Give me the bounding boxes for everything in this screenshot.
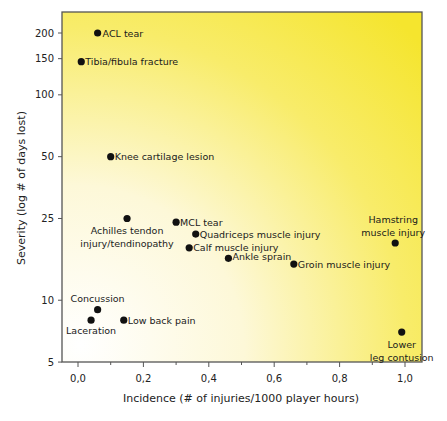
point-label: Tibia/fibula fracture [84, 56, 178, 67]
data-point: Quadriceps muscle injury [192, 229, 321, 240]
x-tick-label: 0,2 [135, 373, 151, 384]
y-tick-label: 5 [48, 357, 54, 368]
x-tick-label: 1,0 [397, 373, 413, 384]
point-label: MCL tear [180, 217, 223, 228]
scatter-chart: 5102550100150200 0,00,20,40,60,81,0 ACL … [0, 0, 447, 421]
point-marker [78, 58, 85, 65]
x-tick-label: 0,0 [70, 373, 86, 384]
point-label: Concussion [71, 293, 125, 304]
point-label: Quadriceps muscle injury [200, 229, 321, 240]
point-marker [290, 260, 297, 267]
point-marker [94, 29, 101, 36]
y-tick-label: 10 [41, 295, 54, 306]
y-tick-label: 150 [35, 53, 54, 64]
x-tick-label: 0,6 [266, 373, 282, 384]
data-point: Tibia/fibula fracture [78, 56, 179, 67]
point-label: Laceration [66, 325, 116, 336]
data-point: Groin muscle injury [290, 259, 390, 270]
y-axis-title: Severity (log # of days lost) [15, 111, 28, 265]
data-point: Knee cartilage lesion [107, 151, 214, 162]
point-marker [225, 255, 232, 262]
data-point: Low back pain [120, 315, 195, 326]
point-label: Ankle sprain [232, 251, 291, 262]
y-tick-label: 200 [35, 28, 54, 39]
point-marker [192, 230, 199, 237]
x-tick-label: 0,8 [332, 373, 348, 384]
point-marker [123, 215, 130, 222]
point-label: Low back pain [128, 315, 196, 326]
point-marker [398, 328, 405, 335]
y-tick-label: 25 [41, 213, 54, 224]
y-tick-label: 50 [41, 151, 54, 162]
x-axis-title: Incidence (# of injuries/1000 player hou… [123, 392, 359, 405]
point-label: ACL tear [103, 28, 144, 39]
point-marker [120, 317, 127, 324]
y-tick-label: 100 [35, 89, 54, 100]
point-marker [186, 244, 193, 251]
data-point: Ankle sprain [225, 251, 292, 262]
point-marker [173, 219, 180, 226]
point-label: Groin muscle injury [298, 259, 391, 270]
x-axis: 0,00,20,40,60,81,0 [70, 362, 413, 384]
point-marker [94, 306, 101, 313]
point-marker [87, 317, 94, 324]
point-marker [107, 153, 114, 160]
y-axis: 5102550100150200 [35, 28, 62, 368]
point-marker [392, 239, 399, 246]
data-point: MCL tear [173, 217, 223, 228]
x-tick-label: 0,4 [201, 373, 217, 384]
point-label: Knee cartilage lesion [115, 151, 215, 162]
